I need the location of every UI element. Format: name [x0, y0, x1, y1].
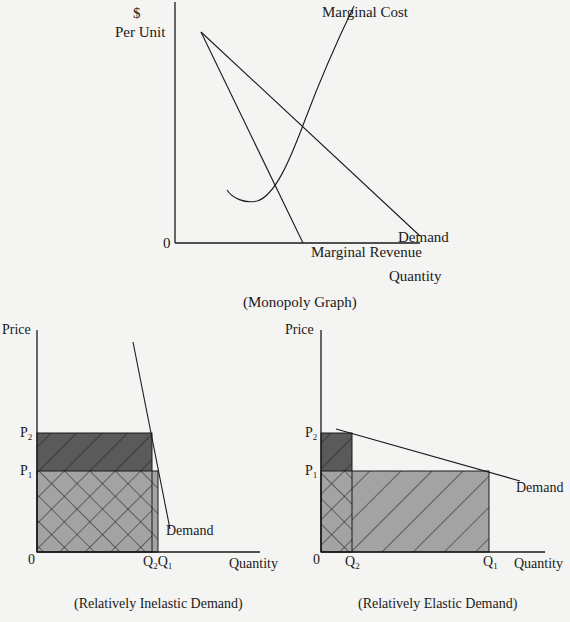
monopoly-caption: (Monopoly Graph)	[243, 295, 357, 310]
elastic-caption: (Relatively Elastic Demand)	[358, 597, 517, 611]
inelastic-demand-label: Demand	[166, 524, 213, 538]
dollar-label: $	[133, 6, 141, 21]
demand-curve	[201, 32, 420, 236]
inelastic-price-label: Price	[2, 323, 31, 337]
monopoly-quantity-label: Quantity	[389, 269, 442, 284]
inelastic-p2-label: P2	[20, 426, 32, 442]
demand-label: Demand	[398, 230, 449, 245]
marginal-revenue-curve	[201, 32, 303, 243]
inelastic-quantity-label: Quantity	[229, 557, 278, 571]
elastic-demand-label: Demand	[516, 481, 563, 495]
elastic-origin-label: 0	[313, 553, 320, 567]
elastic-p1-label: P1	[305, 464, 317, 480]
monopoly-origin-label: 0	[163, 236, 171, 251]
marginal-revenue-label: Marginal Revenue	[311, 245, 422, 260]
diagram-canvas	[0, 0, 570, 622]
elastic-q1-label: Q1	[483, 555, 498, 571]
inelastic-q-labels: Q2Q1	[143, 555, 172, 571]
marginal-cost-curve	[227, 6, 354, 202]
per-unit-label: Per Unit	[115, 25, 165, 40]
inelastic-origin-label: 0	[28, 553, 35, 567]
elastic-graph	[321, 330, 545, 552]
elastic-p2-label: P2	[305, 426, 317, 442]
elastic-quantity-label: Quantity	[514, 557, 563, 571]
inelastic-p1-label: P1	[20, 464, 32, 480]
inelastic-graph	[37, 330, 260, 552]
elastic-price-label: Price	[285, 323, 314, 337]
marginal-cost-label: Marginal Cost	[322, 5, 408, 20]
monopoly-graph	[175, 2, 420, 243]
inelastic-caption: (Relatively Inelastic Demand)	[74, 597, 243, 611]
elastic-q2-label: Q2	[345, 555, 360, 571]
